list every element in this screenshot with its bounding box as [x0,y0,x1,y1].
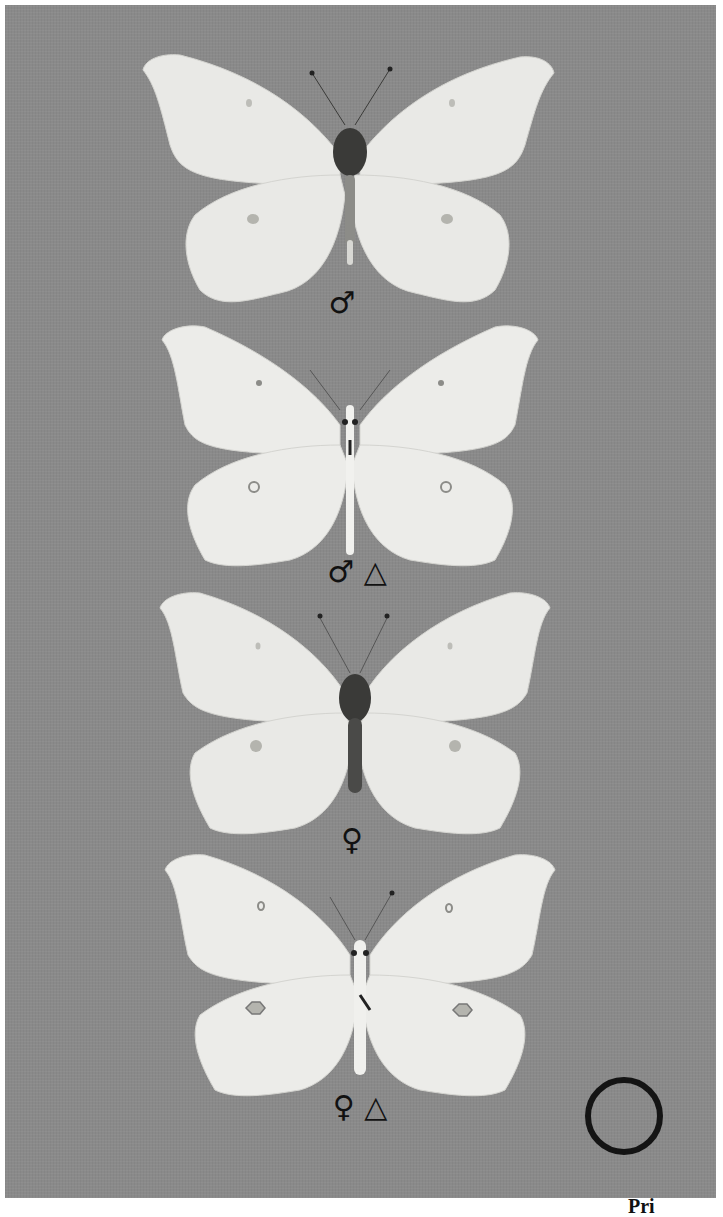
butterfly-female-underside [160,845,560,1105]
sex-symbol-male: ♂ [329,288,356,318]
specimen-plate: ♂ ♂ △ [5,5,716,1198]
butterfly-male-underside [150,315,550,575]
butterfly-male-upperside [140,45,560,320]
sex-symbol-female-underside: ♀ △ [333,1092,388,1122]
scale-ring [585,1077,663,1155]
caption-text: Pri [628,1196,655,1216]
butterfly-female-upperside [155,583,555,843]
